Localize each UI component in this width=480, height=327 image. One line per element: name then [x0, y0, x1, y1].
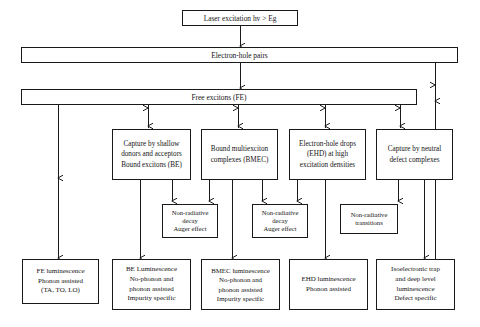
node-capture-neutral-defects-line-1: defect complexes — [377, 155, 452, 166]
node-capture-shallow-donors-line-2: Bound excitons (BE) — [113, 160, 190, 171]
node-fe-luminescence-line-2: (TA, TO, LO) — [23, 286, 98, 296]
node-bmec-luminescence-line-2: phonon assisted — [202, 285, 279, 294]
node-be-luminescence[interactable]: BE Luminescence No-phonon and phonon ass… — [112, 259, 191, 310]
node-nonradiative-decay-be-line-1: decay — [163, 217, 217, 225]
node-ehd-luminescence[interactable]: EHD luminescence Phonon assisted — [289, 259, 368, 310]
node-capture-neutral-defects-line-0: Capture by neutral — [377, 144, 452, 155]
node-nonradiative-decay-bmec-line-2: Auger effect — [253, 225, 307, 233]
node-be-luminescence-line-0: BE Luminescence — [113, 265, 190, 275]
node-nonradiative-decay-bmec-line-1: decay — [253, 217, 307, 225]
node-bmec-luminescence[interactable]: BMEC luminescence No-phonon and phonon a… — [201, 259, 280, 310]
node-bmec-luminescence-line-3: Impurity specific — [202, 294, 279, 303]
flowchart-canvas: Laser excitation hv > Eg Electron-hole p… — [0, 0, 480, 327]
node-capture-shallow-donors-line-1: donors and acceptors — [113, 149, 190, 160]
node-bound-multiexciton-complexes-line-0: Bound multiexciton — [202, 144, 277, 155]
node-electron-hole-drops-line-1: (EHD) at high — [290, 149, 365, 160]
node-be-luminescence-line-1: No-phonon and — [113, 275, 190, 285]
node-capture-neutral-defects[interactable]: Capture by neutral defect complexes — [376, 129, 453, 180]
node-nonradiative-decay-be-line-0: Non-radiative — [163, 209, 217, 217]
node-nonradiative-transitions-line-1: transitions — [341, 219, 397, 227]
node-electron-hole-pairs-line-0: Electron-hole pairs — [22, 51, 457, 60]
node-laser-excitation[interactable]: Laser excitation hv > Eg — [182, 10, 298, 26]
node-fe-luminescence[interactable]: FE luminescence Phonon assisted (TA, TO,… — [22, 259, 99, 304]
node-bound-multiexciton-complexes[interactable]: Bound multiexciton complexes (BMEC) — [201, 129, 278, 180]
node-free-excitons-line-0: Free excitons (FE) — [22, 93, 416, 102]
node-capture-shallow-donors-line-0: Capture by shallow — [113, 139, 190, 150]
node-nonradiative-decay-be[interactable]: Non-radiative decay Auger effect — [162, 204, 218, 238]
node-nonradiative-decay-bmec-line-0: Non-radiative — [253, 209, 307, 217]
node-isoelectronic-trap-luminescence[interactable]: Isoelectronic trap and deep level lumine… — [376, 259, 455, 310]
node-fe-luminescence-line-1: Phonon assisted — [23, 277, 98, 287]
node-bmec-luminescence-line-0: BMEC luminescence — [202, 266, 279, 275]
node-bmec-luminescence-line-1: No-phonon and — [202, 275, 279, 284]
node-capture-shallow-donors[interactable]: Capture by shallow donors and acceptors … — [112, 129, 191, 180]
node-nonradiative-decay-be-line-2: Auger effect — [163, 225, 217, 233]
node-electron-hole-drops[interactable]: Electron-hole drops (EHD) at high excita… — [289, 129, 366, 180]
node-isoelectronic-trap-luminescence-line-0: Isoelectronic trap — [377, 265, 454, 275]
node-nonradiative-transitions[interactable]: Non-radiative transitions — [340, 204, 398, 234]
node-be-luminescence-line-3: Impurity specific — [113, 294, 190, 304]
node-laser-excitation-line-0: Laser excitation hv > Eg — [183, 14, 297, 23]
node-isoelectronic-trap-luminescence-line-3: Defect specific — [377, 294, 454, 304]
node-free-excitons[interactable]: Free excitons (FE) — [21, 89, 417, 105]
node-be-luminescence-line-2: phonon assisted — [113, 285, 190, 295]
node-isoelectronic-trap-luminescence-line-2: luminescence — [377, 285, 454, 295]
node-fe-luminescence-line-0: FE luminescence — [23, 267, 98, 277]
node-bound-multiexciton-complexes-line-1: complexes (BMEC) — [202, 155, 277, 166]
node-nonradiative-transitions-line-0: Non-radiative — [341, 211, 397, 219]
node-electron-hole-drops-line-2: excitation densities — [290, 160, 365, 171]
node-electron-hole-drops-line-0: Electron-hole drops — [290, 139, 365, 150]
node-ehd-luminescence-line-0: EHD luminescence — [290, 275, 367, 285]
node-ehd-luminescence-line-1: Phonon assisted — [290, 285, 367, 295]
node-nonradiative-decay-bmec[interactable]: Non-radiative decay Auger effect — [252, 204, 308, 238]
node-isoelectronic-trap-luminescence-line-1: and deep level — [377, 275, 454, 285]
node-electron-hole-pairs[interactable]: Electron-hole pairs — [21, 47, 458, 63]
